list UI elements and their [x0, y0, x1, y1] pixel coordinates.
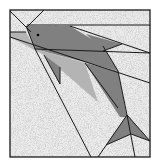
- dolphin-puzzle-diagram: [0, 0, 157, 166]
- dolphin-eye: [37, 34, 40, 37]
